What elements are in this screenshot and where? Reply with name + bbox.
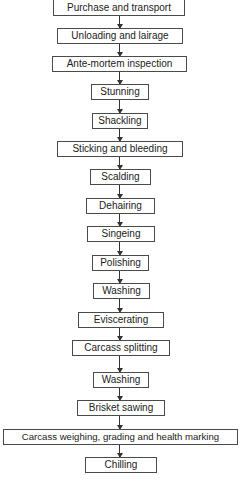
step-carcass-splitting: Carcass splitting	[72, 340, 170, 356]
arrow-11	[119, 299, 120, 312]
arrow-6	[119, 157, 120, 169]
arrow-13	[119, 356, 120, 372]
step-washing-2: Washing	[93, 372, 149, 388]
step-label: Purchase and transport	[67, 3, 171, 13]
step-label: Ante-mortem inspection	[67, 59, 173, 69]
arrow-3	[119, 72, 120, 84]
arrow-10	[119, 271, 120, 283]
step-brisket-sawing: Brisket sawing	[77, 400, 165, 416]
step-sticking-and-bleeding: Sticking and bleeding	[57, 141, 183, 157]
step-label: Scalding	[101, 172, 139, 182]
step-dehairing: Dehairing	[86, 198, 155, 214]
step-eviscerating: Eviscerating	[78, 312, 164, 328]
step-label: Washing	[102, 286, 141, 296]
step-label: Dehairing	[99, 201, 142, 211]
step-shackling: Shackling	[92, 113, 148, 129]
arrow-12	[119, 328, 120, 340]
step-label: Washing	[102, 375, 141, 385]
arrow-7	[119, 185, 120, 198]
step-label: Chilling	[105, 460, 138, 470]
step-stunning: Stunning	[91, 84, 149, 100]
step-label: Polishing	[100, 258, 141, 268]
step-label: Shackling	[98, 116, 141, 126]
arrow-15	[119, 416, 120, 429]
arrow-5	[119, 129, 120, 141]
arrow-14	[119, 388, 120, 400]
step-polishing: Polishing	[92, 255, 149, 271]
step-label: Unloading and lairage	[71, 31, 168, 41]
arrow-16	[119, 445, 120, 457]
step-singeing: Singeing	[87, 226, 155, 242]
step-ante-mortem-inspection: Ante-mortem inspection	[52, 56, 187, 72]
step-scalding: Scalding	[90, 169, 151, 185]
arrow-9	[119, 242, 120, 255]
step-label: Stunning	[100, 87, 139, 97]
arrow-8	[119, 214, 120, 226]
arrow-1	[119, 16, 120, 28]
step-label: Carcass weighing, grading and health mar…	[22, 432, 219, 442]
step-purchase-and-transport: Purchase and transport	[53, 0, 185, 16]
arrow-4	[119, 100, 120, 113]
arrow-2	[119, 44, 120, 56]
step-chilling: Chilling	[85, 457, 157, 473]
step-washing-1: Washing	[93, 283, 150, 299]
step-label: Eviscerating	[94, 315, 148, 325]
step-unloading-and-lairage: Unloading and lairage	[57, 28, 183, 44]
step-label: Brisket sawing	[89, 403, 153, 413]
step-label: Sticking and bleeding	[72, 144, 167, 154]
step-label: Singeing	[102, 229, 141, 239]
step-carcass-weighing-grading-health-marking: Carcass weighing, grading and health mar…	[3, 429, 238, 445]
step-label: Carcass splitting	[84, 343, 157, 353]
